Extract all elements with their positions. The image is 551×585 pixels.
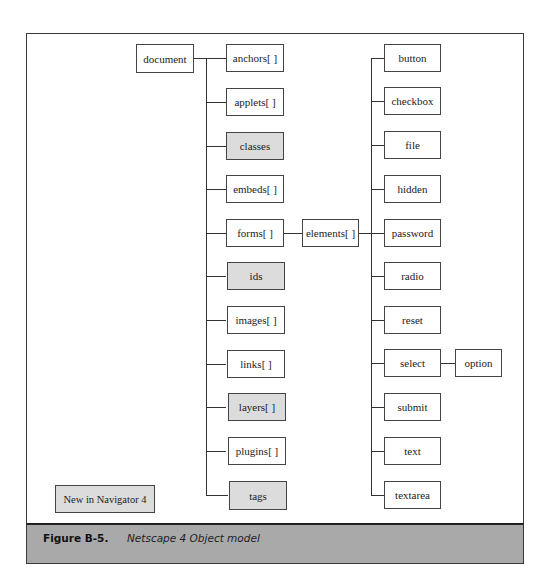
connector	[371, 451, 384, 452]
node-tags: tags	[229, 481, 287, 510]
node-reset: reset	[384, 306, 441, 334]
connector	[194, 58, 226, 59]
connector	[284, 233, 302, 234]
node-checkbox: checkbox	[384, 87, 441, 115]
node-file: file	[384, 131, 441, 159]
connector	[371, 276, 384, 277]
node-layers: layers[ ]	[228, 393, 286, 421]
figure-caption-bar: Figure B-5. Netscape 4 Object model	[26, 523, 524, 564]
node-anchors: anchors[ ]	[226, 44, 284, 72]
legend-new-in-navigator-4: New in Navigator 4	[55, 485, 155, 513]
connector	[441, 363, 455, 364]
node-text: text	[384, 437, 441, 465]
connector	[206, 102, 226, 103]
connector	[371, 189, 384, 190]
node-elements: elements[ ]	[302, 219, 359, 247]
connector	[371, 363, 384, 364]
node-hidden: hidden	[384, 175, 441, 203]
connector	[206, 407, 226, 408]
figure-title: Netscape 4 Object model	[127, 532, 260, 544]
node-forms: forms[ ]	[226, 219, 284, 247]
connector	[206, 276, 226, 277]
connector	[206, 364, 226, 365]
node-textarea: textarea	[384, 481, 441, 509]
connector	[206, 146, 226, 147]
node-embeds: embeds[ ]	[226, 175, 284, 203]
node-applets: applets[ ]	[226, 88, 284, 116]
connector	[371, 320, 384, 321]
connector	[371, 101, 384, 102]
node-button: button	[384, 44, 441, 72]
node-document: document	[136, 44, 194, 73]
connector	[206, 451, 226, 452]
connector	[371, 145, 384, 146]
connector	[371, 495, 384, 496]
node-password: password	[384, 219, 441, 247]
node-plugins: plugins[ ]	[228, 437, 286, 465]
node-links: links[ ]	[227, 350, 285, 378]
node-select: select	[384, 349, 441, 377]
connector	[371, 58, 384, 59]
figure-number: Figure B-5.	[43, 532, 108, 544]
connector	[206, 495, 228, 496]
node-option: option	[455, 349, 502, 377]
node-classes: classes	[226, 132, 284, 160]
connector	[206, 320, 226, 321]
connector	[206, 233, 226, 234]
node-images: images[ ]	[227, 306, 285, 334]
connector	[371, 407, 384, 408]
node-radio: radio	[384, 262, 441, 290]
connector	[206, 189, 226, 190]
node-submit: submit	[384, 393, 441, 421]
node-ids: ids	[227, 262, 285, 290]
